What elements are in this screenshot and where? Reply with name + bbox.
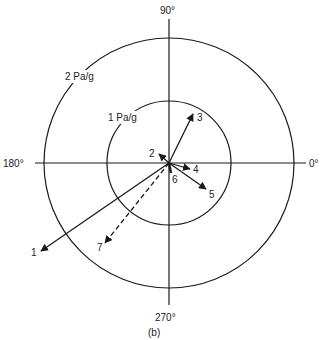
axis-label-270: 270° [155, 312, 176, 323]
vector-2 [159, 154, 169, 163]
axis-label-180: 180° [3, 158, 24, 169]
vector-1 [41, 163, 169, 251]
vector-label-3: 3 [197, 112, 203, 123]
vector-label-6: 6 [172, 174, 178, 185]
axis-label-0: 0° [309, 158, 319, 169]
vector-label-7: 7 [97, 242, 103, 253]
vector-3 [169, 114, 193, 163]
figure-caption: (b) [148, 327, 160, 338]
ring-label-2pa: 2 Pa/g [65, 71, 94, 82]
vector-7-dashed [105, 163, 169, 243]
axis-label-90: 90° [160, 5, 175, 16]
ring-label-1pa: 1 Pa/g [108, 112, 137, 123]
vector-label-5: 5 [209, 189, 215, 200]
vector-label-1: 1 [31, 247, 37, 258]
vector-label-2: 2 [149, 148, 155, 159]
vector-label-4: 4 [193, 164, 199, 175]
polar-vector-diagram: 90° 180° 0° 270° 2 Pa/g 1 Pa/g 1 2 3 4 5… [0, 0, 324, 340]
